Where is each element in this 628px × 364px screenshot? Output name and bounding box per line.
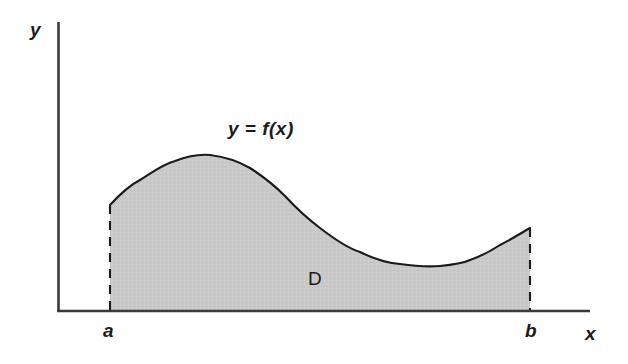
region-label-D: D bbox=[308, 269, 322, 288]
x-axis-label: x bbox=[585, 324, 596, 343]
curve-equation-label: y = f(x) bbox=[228, 119, 294, 138]
y-axis-label: y bbox=[30, 20, 41, 39]
region-under-curve-figure bbox=[0, 0, 628, 364]
figure-container: y x a b y = f(x) D bbox=[0, 0, 628, 364]
upper-bound-label-b: b bbox=[525, 321, 537, 340]
lower-bound-label-a: a bbox=[103, 321, 114, 340]
